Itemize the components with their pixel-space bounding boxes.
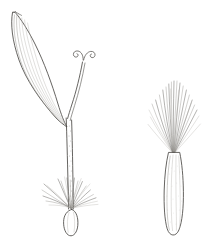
botanical-drawing-canvas: [0, 0, 222, 242]
plate-background: [0, 0, 222, 242]
illustration-plate: Botanical line illustration: two dispers…: [0, 0, 222, 242]
